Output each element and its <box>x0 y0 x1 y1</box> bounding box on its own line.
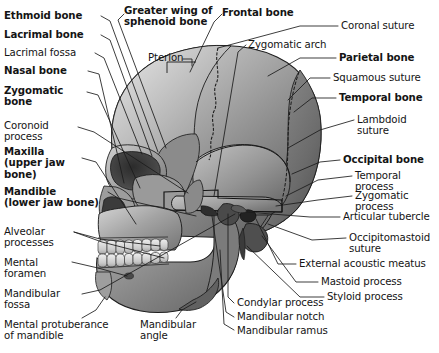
label-lacrimal-bone: Lacrimal bone <box>4 29 84 40</box>
skull-body <box>95 45 321 312</box>
leader-mental-protuberance <box>82 297 105 318</box>
label-articular-tubercle: Articular tubercle <box>343 211 430 222</box>
label-zygomatic-bone: Zygomatic bone <box>4 85 63 108</box>
label-condylar-process: Condylar process <box>237 297 323 308</box>
label-mandibular-notch: Mandibular notch <box>237 311 324 322</box>
label-greater-wing-of-sphenoid-bone: Greater wing of sphenoid bone <box>124 5 212 28</box>
label-pterion: Pterion <box>148 52 183 63</box>
label-mandible: Mandible (lower jaw bone) <box>4 186 99 209</box>
label-frontal-bone: Frontal bone <box>222 7 294 18</box>
label-mandibular-fossa: Mandibular fossa <box>4 288 60 311</box>
mental-protuberance-region <box>95 272 111 300</box>
label-alveolar-processes: Alveolar processes <box>4 226 54 249</box>
label-parietal-bone: Parietal bone <box>339 52 414 63</box>
label-external-acoustic-meatus: External acoustic meatus <box>299 258 426 269</box>
label-zygomatic-arch: Zygomatic arch <box>248 39 326 50</box>
leader-styloid-process <box>247 246 324 297</box>
skull-diagram: Ethmoid bone Lacrimal bone Lacrimal foss… <box>0 0 439 353</box>
label-occipitomastoid-suture: Occipitomastoid suture <box>349 232 430 255</box>
label-styloid-process: Styloid process <box>327 291 403 302</box>
label-coronoid-process: Coronoid process <box>4 120 49 143</box>
label-nasal-bone: Nasal bone <box>4 65 67 76</box>
label-mental-foramen: Mental foramen <box>4 257 46 280</box>
label-maxilla: Maxilla (upper jaw bone) <box>4 146 65 180</box>
label-ethmoid-bone: Ethmoid bone <box>4 10 82 21</box>
label-mandibular-angle: Mandibular angle <box>140 319 196 342</box>
label-mental-protuberance-of-mandible: Mental protuberance of mandible <box>4 319 109 342</box>
label-lambdoid-suture: Lambdoid suture <box>357 114 407 137</box>
label-mandibular-ramus: Mandibular ramus <box>237 325 328 336</box>
upper-teeth <box>98 239 168 254</box>
leader-occipitomastoid <box>268 224 346 240</box>
label-mastoid-process: Mastoid process <box>321 276 402 287</box>
label-temporal-bone: Temporal bone <box>339 92 423 103</box>
label-zygomatic-process: Zygomatic process <box>355 190 408 213</box>
label-lacrimal-fossa: Lacrimal fossa <box>4 47 76 58</box>
label-coronal-suture: Coronal suture <box>341 20 414 31</box>
label-occipital-bone: Occipital bone <box>343 154 424 165</box>
label-squamous-suture: Squamous suture <box>333 72 421 83</box>
